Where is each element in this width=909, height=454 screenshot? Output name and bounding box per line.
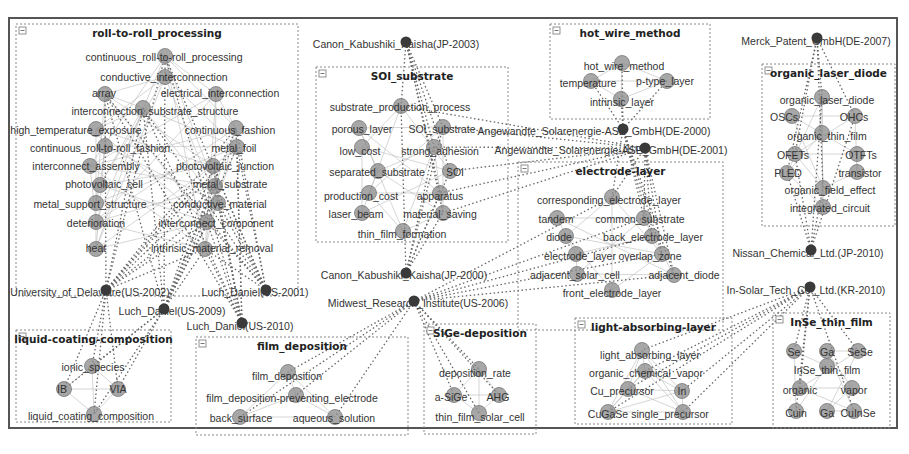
keyword-label: interconnection_substrate_structure — [72, 105, 239, 117]
patent-network-graph: roll-to-roll_processingcontinuous_roll-t… — [0, 0, 909, 454]
assignee-a11[interactable]: Nissan_Chemical_Ltd.(JP-2010) — [732, 245, 883, 260]
assignee-a7[interactable]: Luch_Daniel(US-2010) — [187, 318, 294, 333]
keyword-label: photovoltaic_cell — [65, 178, 143, 190]
cluster-title: InSe_thin_film — [790, 316, 873, 329]
assignee-a3[interactable]: Midwest_Research_Institute(US-2006) — [328, 296, 508, 310]
keyword-label: array — [92, 87, 117, 99]
cluster-film-deposition[interactable]: film_depositionfilm_depositionfilm_depos… — [196, 337, 408, 435]
assignee-node[interactable] — [401, 37, 412, 48]
keyword-label: SOI — [446, 166, 464, 178]
assignee-node[interactable] — [812, 33, 823, 44]
keyword-label: SOI_substrate — [408, 123, 475, 135]
assignee-node[interactable] — [618, 124, 629, 135]
keyword-label: Se — [788, 346, 801, 358]
assignee-node[interactable] — [261, 285, 272, 296]
assignee-label: Canon_Kabushiki_Kaisha(JP-2003) — [313, 38, 479, 50]
assignee-a1[interactable]: Canon_Kabushiki_Kaisha(JP-2003) — [313, 37, 479, 51]
keyword-label: tandem — [538, 213, 573, 225]
keyword-label: separated_substrate — [329, 166, 425, 178]
keyword-label: adjacent_solar_cell — [530, 269, 620, 281]
cluster-title: SOI_substrate — [371, 70, 454, 83]
keyword-label: PLED — [774, 167, 802, 179]
assignee-node[interactable] — [806, 245, 817, 256]
cluster-title: light-absorbing-layer — [591, 321, 717, 333]
keyword-label: film_deposition — [252, 370, 322, 382]
assignee-a5[interactable]: Luch_Daniel(US-2001) — [202, 285, 309, 299]
assignee-node[interactable] — [159, 304, 170, 315]
assignee-a4[interactable]: University_of_Delaware(US-2002) — [10, 285, 169, 299]
keyword-label: CuInSe — [840, 407, 875, 419]
keyword-label: metal_foil — [212, 142, 257, 154]
keyword-label: film_deposition-preventing_electrode — [206, 392, 378, 404]
cluster-electrode-layer[interactable]: electrode-layercorresponding_electrode_l… — [518, 162, 723, 330]
keyword-label: front_electrode_layer — [563, 287, 662, 299]
cluster-inse-thin-film[interactable]: InSe_thin_filmSeGaSeSeInSe_thin_filmorga… — [773, 313, 890, 428]
keyword-label: adjacent_diode — [648, 269, 719, 281]
cluster-hot-wire-method[interactable]: hot_wire_methodhot_wire_methodtemperatur… — [550, 24, 710, 119]
keyword-label: common_substrate — [595, 213, 684, 225]
assignee-node[interactable] — [101, 285, 112, 296]
cluster-sige-deposition[interactable]: SiGe-depositiondeposition_ratea-SiGeAHGt… — [424, 324, 536, 434]
keyword-label: p-type_layer — [636, 75, 694, 87]
keyword-label: continuous_roll-to-roll_processing — [86, 51, 243, 63]
keyword-label: transistor — [838, 167, 882, 179]
keyword-label: Ga — [820, 346, 834, 358]
keyword-label: overlap_zone — [618, 250, 681, 262]
assignee-node[interactable] — [401, 268, 412, 279]
cluster-organic-laser-diode[interactable]: organic_laser_diodeorganic_laser_diodeOS… — [762, 64, 895, 226]
keyword-label: Cuin — [785, 407, 807, 419]
keyword-label: OTFTs — [845, 149, 877, 161]
assignee-label: Angewandte_Solarenergie-ASE_GmbH(DE-2000… — [478, 125, 711, 137]
keyword-label: OSCs — [770, 111, 798, 123]
keyword-label: corresponding_electrode_layer — [537, 194, 682, 206]
cluster-title: organic_laser_diode — [770, 67, 887, 80]
keyword-label: Cu_precursor — [590, 385, 654, 397]
keyword-label: organic_thin_film — [787, 130, 867, 142]
keyword-label: conductive_material — [173, 198, 266, 210]
assignee-a8[interactable]: Angewandte_Solarenergie-ASE_GmbH(DE-2000… — [478, 124, 711, 138]
cluster-title: film_deposition — [257, 340, 347, 353]
keyword-label: organic_laser_diode — [780, 94, 875, 106]
keyword-label: a-SiGe — [435, 391, 468, 403]
keyword-label: SeSe — [847, 346, 873, 358]
keyword-label: metal_support_structure — [33, 198, 146, 210]
keyword-label: vapor — [841, 384, 868, 396]
cluster-soi-substrate[interactable]: SOI_substratesubstrate_production_proces… — [316, 67, 508, 242]
cluster-layer: roll-to-roll_processingcontinuous_roll-t… — [10, 24, 895, 435]
assignee-node[interactable] — [805, 282, 816, 293]
assignee-a2[interactable]: Canon_Kabushiki_Kaisha(JP-2000) — [321, 268, 487, 282]
keyword-label: AHG — [487, 391, 510, 403]
keyword-label: temperature — [560, 77, 617, 89]
keyword-label: porous_layer — [332, 123, 393, 135]
keyword-label: In — [678, 385, 687, 397]
keyword-label: heat — [86, 242, 107, 254]
keyword-label: light_absorbing_layer — [600, 349, 700, 361]
keyword-label: interconnect_assembly — [32, 160, 140, 172]
keyword-label: high_temperature_exposure — [10, 124, 141, 136]
cluster-title: roll-to-roll_processing — [92, 27, 222, 40]
assignee-a9[interactable]: Angewandte_Solarenergie-ASE_GmbH(DE-2001… — [495, 143, 728, 157]
cluster-title: hot_wire_method — [579, 27, 680, 40]
cluster-light-absorbing-layer[interactable]: light-absorbing-layerlight_absorbing_lay… — [575, 318, 732, 424]
assignee-node[interactable] — [237, 318, 248, 329]
assignee-a12[interactable]: In-Solar_Tech_Co._Ltd.(KR-2010) — [727, 282, 886, 297]
keyword-label: Ga — [820, 407, 834, 419]
assignee-node[interactable] — [409, 296, 420, 307]
assignee-label: Luch_Daniel(US-2001) — [202, 286, 309, 298]
assignee-a10[interactable]: Merck_Patent_GmbH(DE-2007) — [741, 33, 890, 48]
cluster-title: liquid-coating-composition — [14, 333, 172, 345]
keyword-label: diode — [546, 231, 572, 243]
keyword-label: back_electrode_layer — [603, 231, 703, 243]
keyword-label: intrinsic_material_removal — [151, 242, 273, 254]
assignee-node[interactable] — [640, 143, 651, 154]
keyword-label: integrated_circuit — [790, 202, 870, 214]
keyword-label: organic_chemical_vapor — [589, 367, 703, 379]
keyword-label: laser_beam — [329, 208, 384, 220]
cluster-liquid-coating-composition[interactable]: liquid-coating-compositionionic_speciesI… — [14, 330, 172, 422]
keyword-label: VIA — [110, 383, 127, 395]
cluster-roll-to-roll-processing[interactable]: roll-to-roll_processingcontinuous_roll-t… — [10, 24, 298, 296]
keyword-label: deposition_rate — [439, 367, 511, 379]
assignee-a6[interactable]: Luch_Daniel(US-2009) — [119, 304, 226, 318]
cluster-title: electrode-layer — [576, 165, 667, 177]
keyword-label: CuGaSe — [588, 408, 628, 420]
